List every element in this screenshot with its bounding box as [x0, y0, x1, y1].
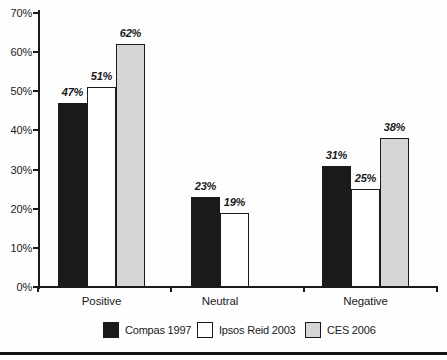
y-tick-label: 50% — [2, 85, 32, 97]
y-axis-tick — [33, 51, 38, 53]
legend-swatch — [103, 322, 119, 338]
y-tick-label: 30% — [2, 164, 32, 176]
y-tick-label: 70% — [2, 7, 32, 19]
bottom-rule — [0, 352, 447, 355]
y-tick-label: 0% — [2, 281, 32, 293]
y-tick-label: 20% — [2, 203, 32, 215]
x-category-label: Neutral — [180, 295, 260, 308]
y-axis — [38, 10, 40, 289]
y-axis-tick — [33, 169, 38, 171]
bar — [191, 197, 220, 287]
y-axis-tick — [33, 129, 38, 131]
bar-value-label: 38% — [375, 121, 415, 133]
y-tick-label: 60% — [2, 46, 32, 58]
legend-swatch — [305, 322, 321, 338]
bar — [351, 189, 380, 287]
bar-value-label: 31% — [317, 149, 357, 161]
bar-value-label: 23% — [186, 180, 226, 192]
bar-value-label: 62% — [111, 27, 151, 39]
x-axis-tick — [436, 288, 438, 292]
x-axis-tick — [170, 288, 172, 292]
bar — [116, 44, 145, 287]
bar — [380, 138, 409, 287]
x-category-label: Negative — [326, 295, 406, 308]
y-axis-tick — [33, 208, 38, 210]
bar — [87, 87, 116, 287]
bar-chart: 0%10%20%30%40%50%60%70%47%51%62%Positive… — [0, 0, 447, 360]
y-axis-tick — [33, 247, 38, 249]
bar — [58, 103, 87, 287]
legend-label: CES 2006 — [327, 322, 376, 338]
bar — [220, 213, 249, 287]
legend-label: Compas 1997 — [125, 322, 191, 338]
x-axis-tick — [303, 288, 305, 292]
y-axis-tick — [33, 12, 38, 14]
bar-value-label: 19% — [215, 196, 255, 208]
legend-swatch — [197, 322, 213, 338]
x-category-label: Positive — [62, 295, 142, 308]
y-axis-tick — [33, 90, 38, 92]
y-tick-label: 40% — [2, 124, 32, 136]
x-axis-tick — [37, 288, 39, 292]
legend-label: Ipsos Reid 2003 — [219, 322, 296, 338]
y-tick-label: 10% — [2, 242, 32, 254]
